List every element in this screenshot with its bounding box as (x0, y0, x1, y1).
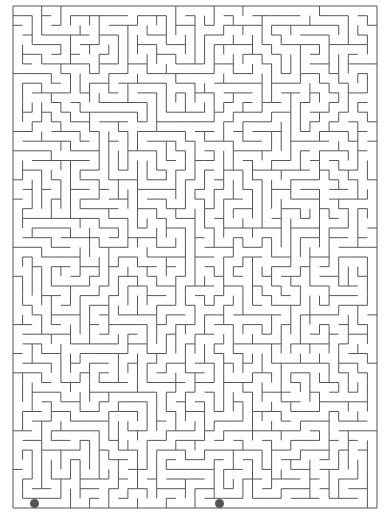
start-marker[interactable] (30, 499, 39, 508)
maze-grid (0, 0, 390, 512)
maze-walls (13, 6, 377, 508)
end-marker[interactable] (215, 499, 224, 508)
